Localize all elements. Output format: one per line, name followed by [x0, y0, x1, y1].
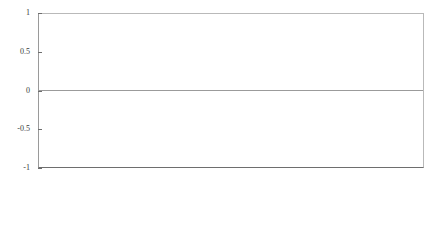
y-tick-label: 0.5 [0, 48, 30, 56]
y-tick-mark [38, 52, 42, 53]
y-tick-mark [38, 13, 42, 14]
y-tick-mark [38, 91, 42, 92]
y-tick-label: -1 [0, 164, 30, 172]
y-tick-mark [38, 168, 42, 169]
y-axis: 10.50-0.5-1 [0, 0, 36, 233]
y-tick-label: 1 [0, 9, 30, 17]
y-tick-mark [38, 129, 42, 130]
plot-area [38, 13, 424, 168]
series-line-1 [39, 14, 423, 167]
y-tick-label: 0 [0, 87, 30, 95]
chart-figure: 10.50-0.5-1 [0, 0, 446, 233]
y-tick-label: -0.5 [0, 125, 30, 133]
